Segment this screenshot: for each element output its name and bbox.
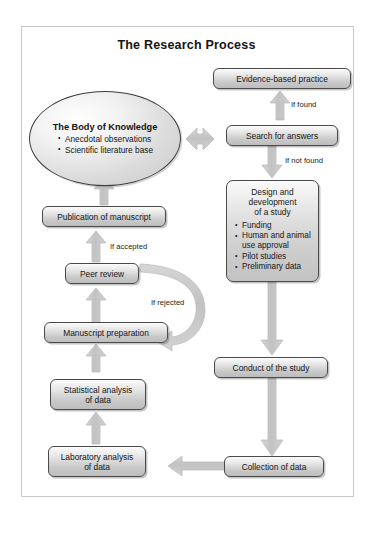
- node-evidence-based-practice-label: Evidence-based practice: [218, 74, 346, 84]
- edge-label-if-rejected: If rejected: [151, 298, 184, 307]
- node-statistical-analysis-of-data-label: Statistical analysis of data: [55, 385, 141, 405]
- node-laboratory-analysis-of-data[interactable]: Laboratory analysis of data: [48, 446, 146, 477]
- design-heading-line-1: Design and: [232, 187, 313, 197]
- node-peer-review[interactable]: Peer review: [65, 263, 139, 284]
- design-bullet-4: Preliminary data: [235, 262, 313, 272]
- design-heading-line-2: development: [232, 197, 313, 207]
- design-bullets: Funding Human and animal use approval Pi…: [232, 221, 313, 273]
- design-heading-line-3: of a study: [232, 207, 313, 217]
- design-bullet-3: Pilot studies: [235, 252, 313, 262]
- laboratory-line-1: Laboratory analysis: [61, 452, 134, 462]
- arrow-search-to-evidence: [270, 91, 290, 120]
- statistical-line-1: Statistical analysis: [64, 385, 132, 395]
- node-publication-of-manuscript[interactable]: Publication of manuscript: [42, 206, 166, 227]
- arrow-collection-to-laboratory: [168, 456, 230, 476]
- body-of-knowledge-bullet-2: Scientific literature base: [57, 145, 153, 156]
- body-of-knowledge-bullets: Anecdotal observations Scientific litera…: [57, 134, 153, 155]
- node-collection-of-data[interactable]: Collection of data: [224, 456, 324, 477]
- node-search-for-answers-label: Search for answers: [231, 131, 333, 141]
- arrow-design-to-conduct: [261, 282, 283, 355]
- design-bullet-1: Funding: [235, 221, 313, 231]
- node-conduct-of-the-study-label: Conduct of the study: [219, 363, 323, 373]
- design-bullet-2: Human and animal use approval: [235, 231, 313, 252]
- node-evidence-based-practice[interactable]: Evidence-based practice: [213, 68, 351, 89]
- node-publication-of-manuscript-label: Publication of manuscript: [47, 212, 161, 222]
- node-design-and-development[interactable]: Design and development of a study Fundin…: [226, 180, 319, 282]
- body-of-knowledge-heading: The Body of Knowledge: [53, 122, 158, 133]
- node-peer-review-label: Peer review: [70, 269, 134, 279]
- node-manuscript-preparation[interactable]: Manuscript preparation: [44, 322, 168, 343]
- edge-label-if-accepted: If accepted: [110, 242, 147, 251]
- node-body-of-knowledge[interactable]: The Body of Knowledge Anecdotal observat…: [29, 91, 181, 186]
- node-statistical-analysis-of-data[interactable]: Statistical analysis of data: [50, 379, 146, 410]
- diagram-canvas: The Research Process The Body of Knowled…: [0, 0, 373, 534]
- body-of-knowledge-bullet-1: Anecdotal observations: [57, 134, 153, 145]
- arrow-peerreview-to-publication: [86, 231, 106, 262]
- arrow-bidirectional-knowledge-search: [186, 128, 214, 150]
- arrow-laboratory-to-statistical: [86, 412, 106, 444]
- arrow-search-to-design: [262, 146, 282, 178]
- arrow-manuscript-to-peerreview: [86, 288, 106, 325]
- node-conduct-of-the-study[interactable]: Conduct of the study: [214, 357, 328, 378]
- diagram-title: The Research Process: [0, 38, 373, 52]
- laboratory-line-2: of data: [84, 462, 110, 472]
- arrow-conduct-to-collection: [261, 378, 283, 456]
- edge-label-if-found: If found: [291, 100, 316, 109]
- node-laboratory-analysis-of-data-label: Laboratory analysis of data: [53, 452, 141, 472]
- node-manuscript-preparation-label: Manuscript preparation: [49, 328, 163, 338]
- node-search-for-answers[interactable]: Search for answers: [226, 125, 338, 146]
- edge-label-if-not-found: If not found: [285, 156, 323, 165]
- arrow-statistical-to-manuscript: [86, 344, 106, 372]
- statistical-line-2: of data: [85, 395, 111, 405]
- node-collection-of-data-label: Collection of data: [229, 462, 319, 472]
